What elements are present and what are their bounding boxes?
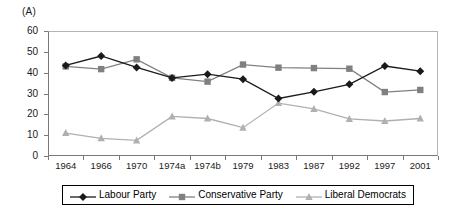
x-tick-label: 1997 [374, 160, 395, 172]
series-liberal-democrats [62, 99, 424, 143]
data-point-marker [98, 66, 104, 72]
chart-legend: Labour PartyConservative PartyLiberal De… [62, 185, 414, 205]
data-point-marker [62, 129, 69, 136]
plot-area [48, 31, 438, 156]
legend-item[interactable]: Conservative Party [169, 189, 282, 201]
chart-container: (A) 0102030405060 1964196619701974a1974b… [0, 0, 460, 212]
y-tick-label: 60 [27, 26, 38, 36]
data-point-marker [416, 67, 424, 75]
panel-label: (A) [22, 6, 36, 18]
data-point-marker [133, 63, 141, 71]
legend-item[interactable]: Liberal Democrats [296, 189, 406, 201]
x-tick-label: 1974b [194, 160, 220, 172]
legend-marker-icon [70, 189, 96, 201]
legend-marker-icon [169, 189, 195, 201]
x-tick-label: 1979 [232, 160, 253, 172]
x-tick-label: 1966 [91, 160, 112, 172]
data-point-marker [311, 65, 317, 71]
legend-label: Conservative Party [198, 189, 282, 201]
legend-label: Labour Party [99, 189, 156, 201]
data-point-marker [204, 78, 210, 84]
x-tick-label: 2001 [410, 160, 431, 172]
x-tick-label: 1987 [303, 160, 324, 172]
data-point-marker [204, 70, 212, 78]
legend-label: Liberal Democrats [325, 189, 406, 201]
y-tick-label: 10 [27, 130, 38, 140]
data-point-marker [310, 88, 318, 96]
x-tick-label: 1992 [339, 160, 360, 172]
data-point-marker [382, 89, 388, 95]
data-point-marker [274, 95, 282, 103]
data-point-marker [240, 61, 246, 67]
data-point-marker [133, 56, 139, 62]
x-tick-label: 1964 [55, 160, 76, 172]
y-tick-label: 50 [27, 47, 38, 57]
legend-item[interactable]: Labour Party [70, 189, 156, 201]
data-point-marker [345, 80, 353, 88]
legend-marker-icon [296, 189, 322, 201]
x-tick-label: 1970 [126, 160, 147, 172]
data-point-marker [168, 112, 175, 119]
x-tick-label: 1974a [159, 160, 185, 172]
data-point-marker [346, 66, 352, 72]
x-tick-mark [438, 156, 439, 160]
series-line [66, 103, 421, 140]
y-tick-label: 0 [32, 151, 38, 161]
y-tick-label: 20 [27, 109, 38, 119]
data-series-layer [48, 31, 438, 156]
data-point-marker [179, 194, 185, 200]
data-point-marker [97, 52, 105, 60]
data-point-marker [239, 75, 247, 83]
data-point-marker [417, 115, 424, 122]
data-point-marker [79, 193, 87, 201]
x-tick-label: 1983 [268, 160, 289, 172]
series-labour-party [62, 52, 425, 103]
y-axis: 0102030405060 [0, 25, 44, 156]
x-axis: 1964196619701974a1974b197919831987199219… [48, 160, 438, 176]
data-point-marker [381, 62, 389, 70]
y-tick-label: 30 [27, 89, 38, 99]
y-tick-label: 40 [27, 68, 38, 78]
data-point-marker [417, 87, 423, 93]
data-point-marker [275, 64, 281, 70]
